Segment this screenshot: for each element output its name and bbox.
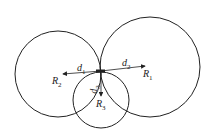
label-d2: d2: [122, 58, 131, 71]
contact-point-marker: [96, 70, 105, 73]
label-d3: d3: [89, 85, 102, 94]
label-d1: d1: [77, 63, 86, 76]
label-r1: R1: [143, 69, 153, 82]
circles-svg: [0, 0, 213, 134]
label-r2: R2: [52, 76, 62, 89]
circle-r1: [100, 17, 200, 117]
circle-r2: [15, 31, 101, 117]
label-r3: R3: [96, 99, 106, 112]
diagram-canvas: d1 d2 d3 R1 R2 R3: [0, 0, 213, 134]
